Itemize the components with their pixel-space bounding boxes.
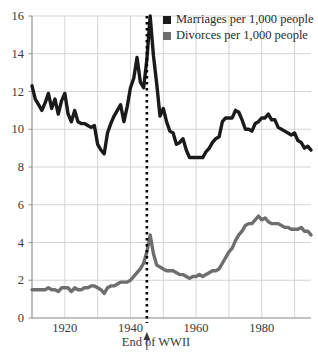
y-tick-4: 4 xyxy=(2,237,24,250)
end-of-wwii-caption: End of WWII xyxy=(96,336,216,349)
y-tick-12: 12 xyxy=(2,86,24,99)
legend-label-marriages: Marriages per 1,000 people xyxy=(176,13,313,26)
divorces-color-swatch-icon xyxy=(163,32,171,40)
y-tick-8: 8 xyxy=(2,161,24,174)
y-tick-10: 10 xyxy=(2,123,24,136)
legend: Marriages per 1,000 people Divorces per … xyxy=(163,12,313,43)
divorces-line xyxy=(32,216,311,293)
y-tick-14: 14 xyxy=(2,48,24,61)
legend-item-marriages: Marriages per 1,000 people xyxy=(163,12,313,27)
horizontal-gridlines xyxy=(32,16,311,318)
y-tick-2: 2 xyxy=(2,274,24,287)
legend-item-divorces: Divorces per 1,000 people xyxy=(163,28,313,43)
plot-area xyxy=(0,0,318,354)
x-tick-1980: 1980 xyxy=(242,322,282,335)
x-tick-1960: 1960 xyxy=(176,322,216,335)
marriages-color-swatch-icon xyxy=(163,16,171,24)
y-tick-0: 0 xyxy=(2,312,24,325)
y-tick-16: 16 xyxy=(2,10,24,23)
x-tick-1940: 1940 xyxy=(110,322,150,335)
y-tick-6: 6 xyxy=(2,199,24,212)
x-tick-1920: 1920 xyxy=(45,322,85,335)
legend-label-divorces: Divorces per 1,000 people xyxy=(176,29,308,42)
marriage-divorce-rate-chart: 0246810121416 1920194019601980 Marriages… xyxy=(0,0,318,354)
